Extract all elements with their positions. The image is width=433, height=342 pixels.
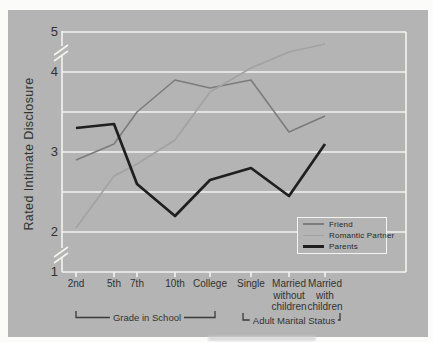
x-tick-label: Married with children xyxy=(296,278,354,313)
legend-item-parents: Parents xyxy=(303,242,386,252)
y-tick-label-3: 3 xyxy=(34,145,58,159)
y-tick-label-5: 5 xyxy=(34,25,58,39)
axis-break-mark xyxy=(54,247,68,257)
y-tick-label-1: 1 xyxy=(34,265,58,279)
legend-line-sample xyxy=(303,235,324,237)
axis-break-mark xyxy=(54,45,68,55)
series-line-parents xyxy=(76,124,325,216)
plot-area xyxy=(0,0,433,342)
legend-item-romantic-partner: Romantic Partner xyxy=(303,231,386,241)
legend-line-sample xyxy=(303,223,324,225)
legend-line-sample xyxy=(303,245,324,248)
axis-break-mark xyxy=(54,51,68,61)
legend-label: Romantic Partner xyxy=(329,231,394,240)
legend-label: Friend xyxy=(329,220,353,229)
legend-item-friend: Friend xyxy=(303,219,386,229)
x-group-label-adult-marital-status: Adult Marital Status xyxy=(250,315,338,326)
y-tick-label-4: 4 xyxy=(34,65,58,79)
legend: FriendRomantic PartnerParents xyxy=(297,217,387,254)
legend-label: Parents xyxy=(329,242,358,251)
axis-break-mark xyxy=(54,253,68,263)
x-group-label-grade-in-school: Grade in School xyxy=(110,312,184,323)
series-line-friend xyxy=(76,80,325,160)
y-tick-label-2: 2 xyxy=(34,225,58,239)
scan-artifact xyxy=(208,336,316,341)
